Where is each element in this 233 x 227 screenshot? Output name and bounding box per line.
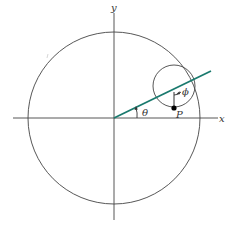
phi-arrow-icon	[177, 91, 181, 94]
tick-mark	[47, 54, 48, 58]
x-axis-label: x	[219, 113, 225, 124]
point-p-label: P	[175, 109, 183, 120]
y-axis-label: y	[110, 2, 117, 13]
theta-label: θ	[142, 107, 148, 118]
geometry-diagram: x y θ ϕ P	[0, 0, 233, 227]
phi-label: ϕ	[182, 86, 189, 97]
